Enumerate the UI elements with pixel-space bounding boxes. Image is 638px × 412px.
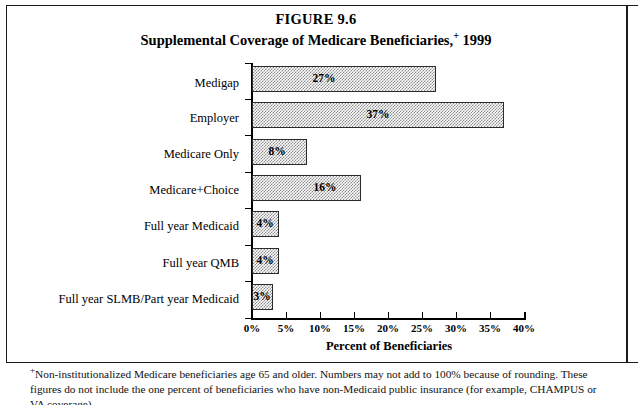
figure-title: Supplemental Coverage of Medicare Benefi… xyxy=(6,31,626,50)
footnote-line-3: VA coverage). xyxy=(30,397,615,405)
figure-title-text: Supplemental Coverage of Medicare Benefi… xyxy=(141,32,454,48)
footnote-line-1-text: Non-institutionalized Medicare beneficia… xyxy=(35,368,588,380)
footnote-line-2: figures do not include the one percent o… xyxy=(30,382,615,397)
figure-footnote: +Non-institutionalized Medicare benefici… xyxy=(30,367,615,405)
figure-border-box xyxy=(6,5,638,363)
figure-title-year: 1999 xyxy=(459,32,492,48)
footnote-line-1: +Non-institutionalized Medicare benefici… xyxy=(30,367,615,382)
figure-title-block: FIGURE 9.6 Supplemental Coverage of Medi… xyxy=(6,11,626,50)
figure-number: FIGURE 9.6 xyxy=(6,11,626,28)
figure-border-right-edge xyxy=(626,5,628,363)
